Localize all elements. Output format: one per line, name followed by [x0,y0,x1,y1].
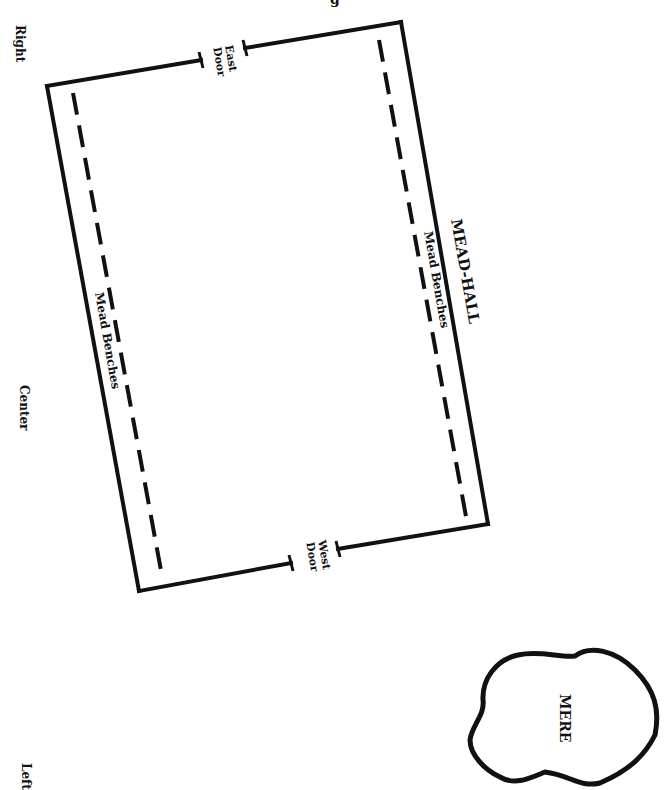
east-bench-line [379,40,467,522]
door-caps [199,40,340,571]
west-door-label: West Door [303,538,333,574]
mere-label: MERE [557,694,573,742]
west-door-cap-left [289,555,293,571]
side-label-right: Right [13,25,27,63]
west-bench-line [73,93,162,576]
east-wall-left-segment [47,60,201,86]
side-label-left: Left [19,763,33,790]
side-label-center: Center [17,385,31,431]
south-wall [47,86,139,591]
mead-hall-map: g Right Center Left [0,0,670,790]
west-wall-right-segment [338,524,488,549]
map-canvas: g Right Center Left [0,0,670,790]
west-door-cap-right [336,541,340,557]
east-door-label: East Door [210,44,240,78]
east-door-cap-right [243,40,247,56]
title-fragment: g [330,0,340,7]
east-door-cap-left [199,52,203,68]
east-wall-right-segment [245,22,401,48]
